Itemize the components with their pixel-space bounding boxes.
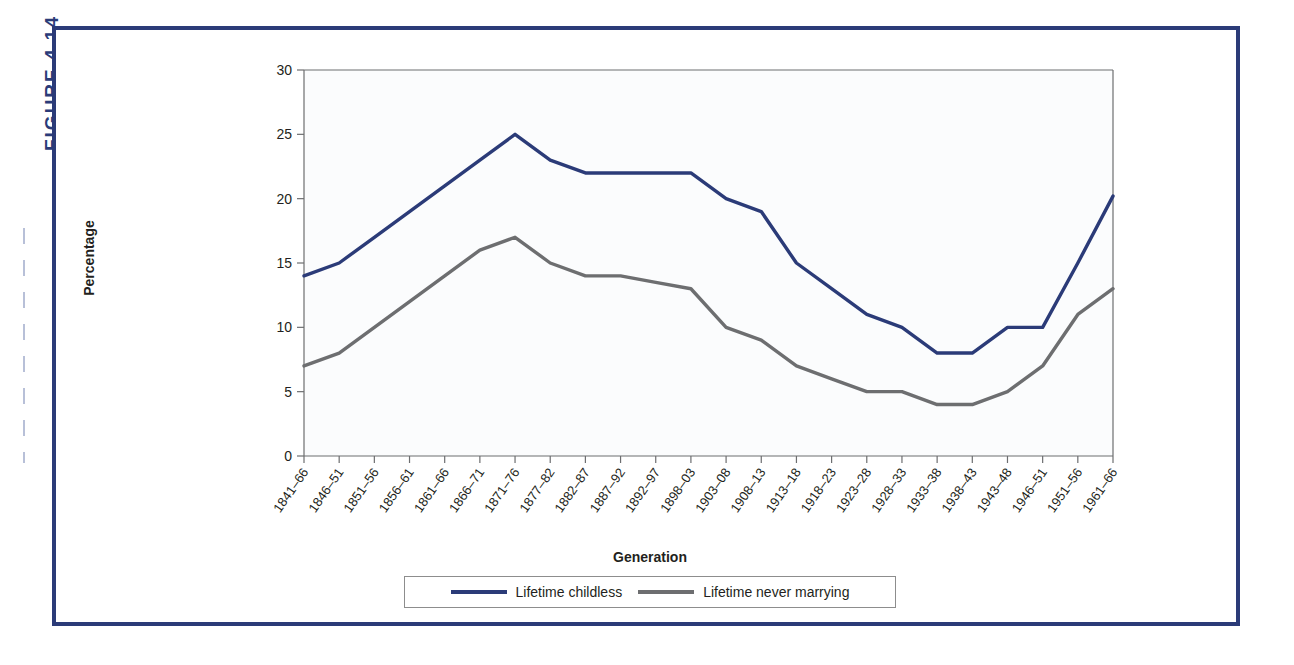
chart-area: Percentage 0510152025301841–661846–51185…	[56, 30, 1244, 630]
svg-text:20: 20	[276, 191, 292, 207]
svg-text:25: 25	[276, 126, 292, 142]
svg-text:30: 30	[276, 62, 292, 78]
figure-container: FIGURE 4.14 Percentage 0510152025301841–…	[0, 0, 1294, 665]
legend-label: Lifetime never marrying	[703, 584, 849, 600]
x-axis-title: Generation	[56, 549, 1244, 565]
chart-legend: Lifetime childless Lifetime never marryi…	[404, 576, 896, 608]
svg-text:0: 0	[284, 448, 292, 464]
line-chart-svg: 0510152025301841–661846–511851–561856–61…	[56, 30, 1244, 630]
svg-text:1961–66: 1961–66	[1079, 465, 1120, 515]
svg-text:5: 5	[284, 384, 292, 400]
figure-frame: Percentage 0510152025301841–661846–51185…	[52, 26, 1240, 626]
svg-text:15: 15	[276, 255, 292, 271]
legend-item-1: Lifetime never marrying	[638, 584, 849, 600]
svg-text:10: 10	[276, 319, 292, 335]
figure-label-rule	[23, 228, 25, 463]
legend-swatch-line-icon	[451, 590, 507, 594]
legend-item-0: Lifetime childless	[451, 584, 623, 600]
legend-label: Lifetime childless	[516, 584, 623, 600]
legend-swatch-line-icon	[638, 590, 694, 594]
